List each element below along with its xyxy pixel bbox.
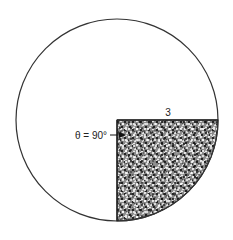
angle-label: θ = 90° <box>75 130 107 141</box>
radius-label: 3 <box>165 107 171 118</box>
shaded-sector-texture <box>117 120 218 221</box>
circle-sector-diagram: 3 θ = 90° <box>0 0 233 240</box>
